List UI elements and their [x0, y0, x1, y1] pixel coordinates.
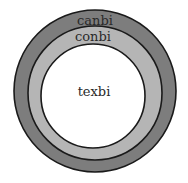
- label-conbi: conbi: [75, 29, 111, 44]
- label-canbi: canbi: [77, 13, 113, 28]
- label-texbi: texbi: [78, 84, 111, 99]
- concentric-diagram: canbi conbi texbi: [0, 0, 188, 183]
